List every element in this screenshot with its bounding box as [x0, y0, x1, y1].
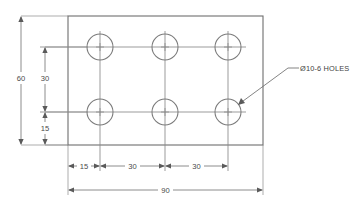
dimension-label-bottom-edge: 15 — [41, 124, 50, 133]
dimension-label-column-pitch-2: 30 — [192, 162, 201, 171]
hole-note-leader — [238, 68, 299, 105]
dimension-bottom-edge: 15 — [38, 112, 68, 145]
dimension-label-column-pitch-1: 30 — [128, 162, 137, 171]
dimension-column-pitch-2: 30 — [165, 160, 228, 172]
technical-drawing-canvas: 60 30 15 — [0, 0, 361, 200]
dimension-label-row-spacing: 30 — [41, 74, 50, 83]
hole-note-label: Ø10-6 HOLES — [300, 64, 349, 73]
plate-detail-drawing: 60 30 15 — [0, 0, 361, 200]
dimension-column-pitch-1: 30 — [100, 160, 165, 172]
dimension-label-overall-height: 60 — [17, 74, 26, 83]
dimension-left-edge-distance: 15 — [68, 160, 100, 172]
dimension-label-left-edge-distance: 15 — [80, 162, 89, 171]
dimension-overall-width: 90 — [68, 171, 263, 196]
dimension-label-overall-width: 90 — [161, 186, 170, 195]
hole-center-marks — [96, 43, 232, 116]
dimension-row-spacing: 30 — [38, 47, 88, 112]
